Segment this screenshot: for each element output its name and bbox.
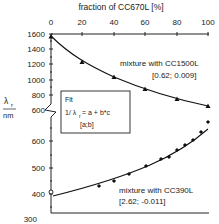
x-tick-label: 100 (201, 18, 215, 27)
svg-text:nm: nm (3, 111, 13, 120)
y-axis-lower (49, 117, 53, 213)
x-tick-labels: 0 20 40 60 80 100 (49, 18, 215, 27)
y-tick-label: 500 (32, 164, 46, 173)
y-tick-label: 1600 (27, 30, 45, 39)
y-tick-labels: 1600 1400 1200 1000 800 600 600 500 400 … (24, 30, 46, 224)
fit-legend-box: Fit 1/ λ r = a + b*c [a;b] (61, 91, 130, 133)
fit-title: Fit (65, 96, 73, 103)
x-tick-label: 20 (78, 18, 87, 27)
y-axis-upper (49, 34, 53, 104)
axis-break-icon (45, 104, 56, 117)
y-axis-title: λ r nm (3, 96, 16, 120)
series-label-cc1500l: mixture with CC1500L (120, 59, 199, 68)
svg-text:λ: λ (4, 96, 9, 106)
fit-params: [a;b] (80, 121, 94, 129)
chart: fraction of CC670L [%] 0 20 40 60 80 100 (0, 0, 219, 224)
svg-text:r: r (11, 102, 13, 108)
x-axis-top (51, 32, 209, 36)
series-params-cc390l: [2.62; -0.011] (119, 197, 166, 206)
y-tick-label: 1000 (27, 76, 45, 85)
y-tick-label: 800 (32, 91, 46, 100)
y-tick-label: 300 (24, 215, 38, 224)
y-tick-label: 400 (32, 190, 46, 199)
x-tick-label: 60 (141, 18, 150, 27)
y-tick-label: 1200 (27, 60, 45, 69)
series-label-cc390l: mixture with CC390L (119, 186, 194, 195)
x-tick-label: 80 (173, 18, 182, 27)
y-tick-label: 600 (32, 137, 46, 146)
x-tick-label: 0 (49, 18, 54, 27)
x-axis-title: fraction of CC670L [%] (78, 2, 163, 12)
y-tick-label: 1400 (27, 45, 45, 54)
fit-formula-rest: = a + b*c (82, 109, 111, 116)
x-tick-label: 40 (110, 18, 119, 27)
series-params-cc1500l: [0.62; 0.009] (152, 71, 196, 80)
fit-formula: 1/ λ (65, 109, 77, 116)
y-tick-label: 600 (32, 106, 46, 115)
